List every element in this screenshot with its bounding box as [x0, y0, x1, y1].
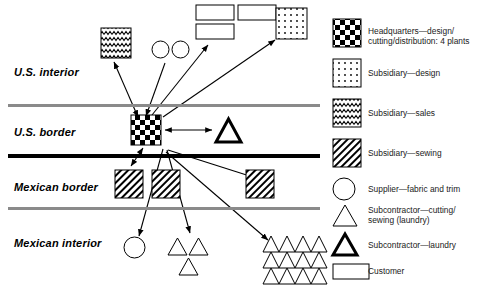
node-customer-2 — [238, 5, 276, 20]
legend-subsidiary-design-label: Subsidiary—design — [368, 68, 440, 78]
legend-headquarters-label: Headquarters—design/ cutting/distributio… — [368, 26, 470, 46]
node-cutting-sub-1 — [168, 238, 187, 255]
node-customer-3 — [196, 24, 234, 39]
legend-panel: Headquarters—design/ cutting/distributio… — [330, 0, 488, 288]
node-supplier-1 — [152, 41, 169, 58]
divider-us-interior-border — [8, 104, 320, 107]
legend-subsidiary-sewing-symbol — [333, 139, 361, 167]
node-sales-subsidiary — [101, 28, 131, 58]
node-cutting-cluster — [263, 236, 327, 284]
node-sewing-subsidiary-1 — [115, 170, 143, 198]
node-supplier-2 — [172, 41, 189, 58]
legend-subsidiary-sales-symbol — [333, 99, 361, 127]
arrow-hq-cutting-small — [167, 150, 190, 233]
node-group — [101, 5, 327, 284]
legend-headquarters-symbol — [333, 19, 361, 47]
legend-subsidiary-sewing-label: Subsidiary—sewing — [368, 148, 442, 158]
node-design-subsidiary — [276, 8, 307, 39]
node-customer-1 — [196, 5, 234, 20]
arrow-group — [114, 40, 275, 240]
divider-us-mexico — [8, 154, 320, 158]
arrow-hq-to-sales — [114, 62, 138, 117]
legend-subcontractor-cutting-label: Subcontractor—cutting/ sewing (laundry) — [368, 205, 456, 225]
band-label-mexican-interior: Mexican interior — [14, 237, 102, 249]
node-sewing-subsidiary-2 — [152, 170, 180, 198]
node-cutting-sub-3 — [179, 258, 198, 275]
legend-supplier-label: Supplier—fabric and trim — [368, 184, 460, 194]
node-cutting-sub-2 — [189, 238, 208, 255]
diagram-canvas: U.S. interiorU.S. borderMexican borderMe… — [0, 0, 488, 288]
arrow-hq-cutting-cluster — [166, 152, 268, 240]
node-supplier-3 — [124, 237, 145, 258]
legend-subsidiary-design-symbol — [333, 59, 361, 87]
legend-subcontractor-laundry-symbol — [333, 234, 357, 255]
band-label-us-border: U.S. border — [14, 126, 76, 138]
node-sewing-subsidiary-3 — [246, 170, 274, 198]
node-laundry-subcontractor — [216, 119, 241, 142]
band-label-us-interior: U.S. interior — [14, 66, 79, 78]
legend-customer-label: Customer — [368, 266, 404, 276]
arrow-hq-to-suppliers — [146, 63, 165, 116]
arrow-hq-supplier-3 — [139, 149, 163, 236]
legend-supplier-symbol — [333, 178, 355, 200]
divider-mexican-border-interior — [8, 207, 320, 210]
legend-subcontractor-cutting-symbol — [333, 205, 357, 226]
legend-subcontractor-laundry-label: Subcontractor—laundry — [368, 240, 456, 250]
node-headquarters — [131, 115, 161, 145]
legend-customer-symbol — [333, 264, 369, 279]
legend-subsidiary-sales-label: Subsidiary—sales — [368, 108, 435, 118]
band-label-mexican-border: Mexican border — [14, 181, 98, 193]
